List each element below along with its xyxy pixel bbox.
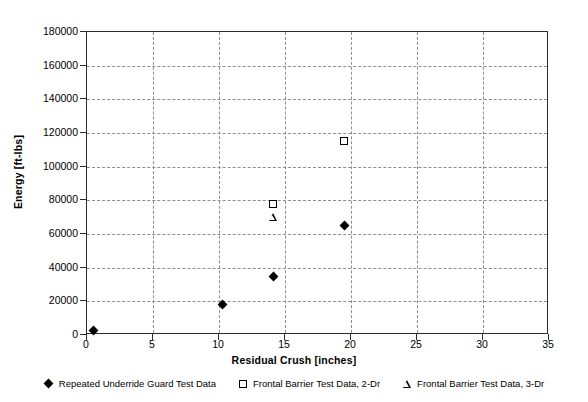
legend-entry[interactable]: Repeated Underride Guard Test Data bbox=[44, 378, 216, 389]
y-axis-tick-label: 40000 bbox=[0, 262, 78, 272]
chart-legend: Repeated Underride Guard Test DataFronta… bbox=[0, 378, 588, 389]
data-point-diamond bbox=[268, 271, 278, 281]
gridline-horizontal bbox=[87, 301, 547, 302]
gridline-horizontal bbox=[87, 66, 547, 67]
y-axis-tick-mark bbox=[80, 31, 86, 32]
legend-label: Frontal Barrier Test Data, 3-Dr bbox=[417, 378, 544, 389]
y-axis-tick-mark bbox=[80, 233, 86, 234]
x-axis-tick-mark bbox=[284, 334, 285, 340]
gridline-vertical bbox=[351, 32, 352, 333]
gridline-horizontal bbox=[87, 234, 547, 235]
gridline-horizontal bbox=[87, 200, 547, 201]
y-axis-tick-label: 180000 bbox=[0, 26, 78, 36]
gridline-vertical bbox=[417, 32, 418, 333]
data-point-square bbox=[269, 200, 277, 208]
x-axis-tick-mark bbox=[86, 334, 87, 340]
legend-label: Repeated Underride Guard Test Data bbox=[59, 378, 216, 389]
gridline-horizontal bbox=[87, 133, 547, 134]
x-axis-tick-labels: 05101520253035 bbox=[0, 338, 588, 354]
y-axis-tick-mark bbox=[80, 300, 86, 301]
y-axis-tick-mark bbox=[80, 98, 86, 99]
y-axis-tick-mark bbox=[80, 166, 86, 167]
data-point-triangle bbox=[269, 213, 277, 221]
gridline-horizontal bbox=[87, 268, 547, 269]
data-point-diamond bbox=[89, 326, 99, 336]
legend-marker-triangle-icon bbox=[402, 379, 412, 389]
x-axis-tick-mark bbox=[350, 334, 351, 340]
x-axis-tick-mark bbox=[482, 334, 483, 340]
data-point-square bbox=[340, 137, 348, 145]
scatter-chart: 0200004000060000800001000001200001400001… bbox=[0, 0, 588, 402]
gridline-horizontal bbox=[87, 99, 547, 100]
legend-entry[interactable]: Frontal Barrier Test Data, 3-Dr bbox=[402, 378, 544, 389]
legend-label: Frontal Barrier Test Data, 2-Dr bbox=[253, 378, 380, 389]
y-axis-tick-mark bbox=[80, 65, 86, 66]
gridline-vertical bbox=[153, 32, 154, 333]
gridline-vertical bbox=[483, 32, 484, 333]
x-axis-tick-mark bbox=[152, 334, 153, 340]
gridline-vertical bbox=[285, 32, 286, 333]
legend-marker-square-icon bbox=[238, 379, 248, 389]
data-point-diamond bbox=[339, 221, 349, 231]
square-icon bbox=[239, 380, 247, 388]
triangle-icon bbox=[403, 380, 411, 388]
y-axis-tick-label: 20000 bbox=[0, 295, 78, 305]
x-axis-tick-mark bbox=[416, 334, 417, 340]
diamond-icon bbox=[44, 379, 54, 389]
legend-entry[interactable]: Frontal Barrier Test Data, 2-Dr bbox=[238, 378, 380, 389]
gridline-horizontal bbox=[87, 167, 547, 168]
y-axis-tick-mark bbox=[80, 132, 86, 133]
legend-marker-diamond-icon bbox=[44, 379, 54, 389]
y-axis-tick-mark bbox=[80, 199, 86, 200]
x-axis-tick-mark bbox=[548, 334, 549, 340]
y-axis-tick-label: 160000 bbox=[0, 60, 78, 70]
x-axis-title: Residual Crush [inches] bbox=[0, 354, 588, 366]
y-axis-title-wrap: Energy [ft-lbs] bbox=[0, 0, 1, 1]
y-axis-title: Energy [ft-lbs] bbox=[12, 92, 24, 252]
gridline-vertical bbox=[219, 32, 220, 333]
plot-area bbox=[86, 31, 548, 334]
x-axis-tick-mark bbox=[218, 334, 219, 340]
y-axis-tick-mark bbox=[80, 267, 86, 268]
